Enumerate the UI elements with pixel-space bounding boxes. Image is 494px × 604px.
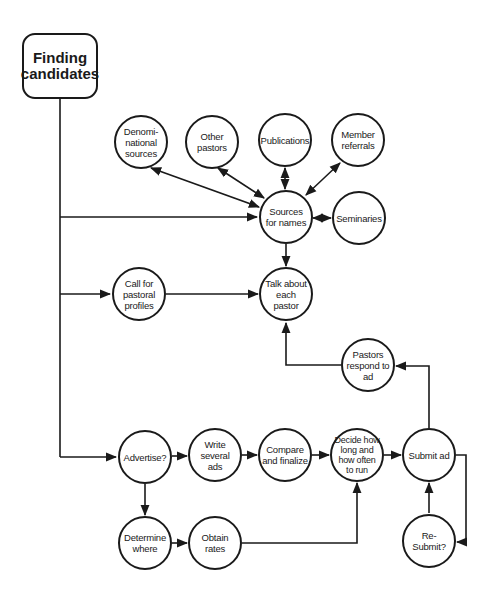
node-pastors-respond-to-ad: Pastors respond to ad bbox=[341, 338, 395, 392]
node-label: Other pastors bbox=[187, 131, 237, 153]
node-label: Decide how long and how often to run bbox=[332, 435, 382, 475]
edge-member-sources bbox=[306, 163, 340, 195]
node-call-for-pastoral-profiles: Call for pastoral profiles bbox=[112, 267, 166, 321]
node-compare-and-finalize: Compare and finalize bbox=[258, 428, 312, 482]
edge-other-sources bbox=[218, 168, 264, 198]
node-advertise: Advertise? bbox=[118, 430, 172, 484]
node-determine-where: Determine where bbox=[118, 516, 172, 570]
node-denominational-sources: Denomi-national sources bbox=[114, 115, 168, 169]
node-label: Submit ad bbox=[407, 450, 452, 461]
node-sources-for-names: Sources for names bbox=[259, 190, 313, 244]
node-label: Write several ads bbox=[190, 439, 240, 472]
node-resubmit: Re-Submit? bbox=[402, 514, 456, 568]
node-label: Pastors respond to ad bbox=[343, 349, 393, 382]
node-write-several-ads: Write several ads bbox=[188, 428, 242, 482]
node-label: Publications bbox=[259, 135, 312, 146]
node-other-pastors: Other pastors bbox=[185, 115, 239, 169]
edge-obtain-decide bbox=[242, 483, 357, 543]
edge-denom-sources bbox=[151, 168, 259, 207]
node-obtain-rates: Obtain rates bbox=[188, 516, 242, 570]
node-seminaries: Seminaries bbox=[332, 191, 386, 245]
edge-respond-talk bbox=[286, 323, 341, 365]
node-label: Determine where bbox=[120, 532, 170, 554]
node-label: Advertise? bbox=[122, 452, 169, 463]
node-label: Talk about each pastor bbox=[261, 278, 311, 311]
node-label: Compare and finalize bbox=[260, 444, 310, 466]
node-submit-ad: Submit ad bbox=[402, 428, 456, 482]
edge-submit-resubmit bbox=[456, 455, 466, 542]
node-member-referrals: Member referrals bbox=[331, 113, 385, 167]
node-label: Seminaries bbox=[334, 213, 384, 224]
node-label: Denomi-national sources bbox=[116, 126, 166, 159]
node-talk-about-each-pastor: Talk about each pastor bbox=[259, 267, 313, 321]
start-node-finding-candidates: Finding candidates bbox=[22, 33, 98, 99]
node-publications: Publications bbox=[258, 113, 312, 167]
edge-submit-respond bbox=[396, 366, 429, 428]
node-label: Sources for names bbox=[261, 206, 311, 228]
node-label: Obtain rates bbox=[190, 532, 240, 554]
node-label: Member referrals bbox=[333, 129, 383, 151]
start-label: Finding candidates bbox=[21, 50, 99, 82]
node-label: Re-Submit? bbox=[404, 530, 454, 552]
node-label: Call for pastoral profiles bbox=[114, 278, 164, 311]
node-decide-how-long: Decide how long and how often to run bbox=[330, 428, 384, 482]
